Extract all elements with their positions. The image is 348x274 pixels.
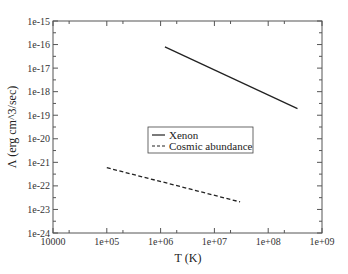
series-lines bbox=[107, 47, 298, 202]
y-tick-label: 1e-16 bbox=[27, 39, 50, 50]
y-tick-label: 1e-23 bbox=[27, 204, 50, 215]
x-tick-label: 1e+08 bbox=[256, 236, 281, 247]
x-tick-label: 1e+09 bbox=[309, 236, 334, 247]
x-tick-label: 1e+05 bbox=[94, 236, 119, 247]
series-line-cosmic-abundance bbox=[107, 168, 240, 202]
y-tick-label: 1e-22 bbox=[27, 180, 50, 191]
x-tick-label: 1e+06 bbox=[148, 236, 173, 247]
y-axis-title: Λ (erg cm^3/sec) bbox=[5, 86, 19, 168]
y-tick-label: 1e-19 bbox=[27, 110, 50, 121]
y-tick-label: 1e-20 bbox=[27, 133, 50, 144]
x-tick-label: 1e+07 bbox=[202, 236, 227, 247]
chart: 100001e+051e+061e+071e+081e+09 1e-151e-1… bbox=[0, 0, 348, 274]
legend-label-cosmic: Cosmic abundance bbox=[169, 140, 253, 152]
y-tick-label: 1e-21 bbox=[27, 157, 50, 168]
y-tick-label: 1e-18 bbox=[27, 86, 50, 97]
y-tick-label: 1e-24 bbox=[27, 228, 50, 239]
y-tick-label: 1e-17 bbox=[27, 63, 50, 74]
y-tick-label: 1e-15 bbox=[27, 16, 50, 27]
series-line-xenon bbox=[165, 47, 298, 109]
x-axis-title: T (K) bbox=[175, 251, 202, 265]
legend: Xenon Cosmic abundance bbox=[148, 127, 253, 153]
